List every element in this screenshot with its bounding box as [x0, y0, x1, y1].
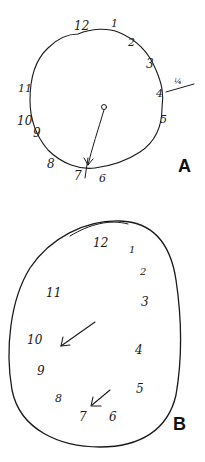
clock-a-number-5: 5: [160, 113, 167, 126]
clock-a-number-11: 11: [18, 82, 32, 95]
clock-a-face: [30, 29, 163, 168]
clock-b-number-7: 7: [79, 410, 87, 424]
clock-drawings-figure: 12 1 2 3 4 5 6 7 8 9 10 11 ¼ A 12 1 2 3 …: [0, 0, 205, 462]
clock-a-number-7: 7: [74, 169, 82, 183]
clock-b-number-6: 6: [109, 410, 117, 424]
clock-a-number-3: 3: [146, 57, 154, 71]
clock-a-number-9: 9: [33, 126, 41, 140]
clock-a-hand: [88, 110, 104, 165]
clock-a-annotation: ¼: [174, 77, 182, 86]
clock-b-number-12: 12: [93, 236, 108, 250]
clock-a-number-10: 10: [17, 114, 33, 128]
clock-a-number-2: 2: [127, 36, 135, 49]
clock-b-number-3: 3: [141, 295, 149, 309]
clock-b-number-4: 4: [134, 343, 143, 357]
clock-b: 12 1 2 3 4 5 6 7 8 9 10 11 B: [9, 221, 186, 447]
clock-b-number-5: 5: [136, 382, 144, 396]
clock-b-number-1: 1: [129, 244, 135, 255]
clock-a: 12 1 2 3 4 5 6 7 8 9 10 11 ¼ A: [17, 17, 194, 185]
clock-b-number-9: 9: [37, 364, 45, 378]
clock-a-number-8: 8: [47, 157, 55, 171]
clock-b-number-11: 11: [46, 286, 61, 300]
clock-a-number-12: 12: [74, 19, 89, 33]
clock-a-center: [102, 105, 107, 110]
clock-b-hand-upper: [61, 322, 95, 346]
panel-label-a: A: [178, 156, 191, 176]
panel-label-b: B: [173, 414, 186, 434]
clock-a-number-4: 4: [155, 87, 163, 100]
clock-b-hand-lower: [92, 390, 110, 405]
clock-b-number-8: 8: [55, 392, 62, 405]
clock-a-number-6: 6: [99, 172, 106, 185]
clock-a-number-1: 1: [111, 17, 118, 30]
clock-b-number-2: 2: [139, 266, 146, 277]
clock-b-number-10: 10: [27, 333, 43, 347]
